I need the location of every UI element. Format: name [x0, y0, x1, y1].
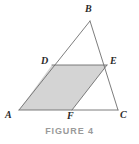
vertex-label-c: C — [120, 110, 127, 120]
vertex-label-b: B — [85, 4, 92, 14]
vertex-label-f: F — [67, 111, 74, 121]
vertex-label-d: D — [41, 56, 48, 66]
vertex-label-a: A — [5, 110, 12, 120]
vertex-label-e: E — [110, 56, 117, 66]
geometry-diagram — [0, 0, 139, 144]
shaded-parallelogram-adef — [19, 65, 107, 110]
figure-caption: FIGURE 4 — [0, 126, 139, 136]
figure-container: A B C D E F FIGURE 4 — [0, 0, 139, 144]
